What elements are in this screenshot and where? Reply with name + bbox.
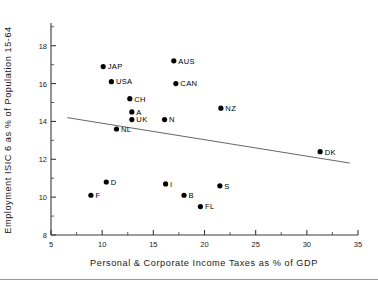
y-tick-label: 12 [39,155,47,164]
point-label-jap: JAP [108,62,123,71]
point-label-f: F [95,191,100,200]
y-tick-label: 10 [39,193,47,202]
figure-background [0,0,378,289]
point-marker [127,96,132,101]
y-tick-label: 18 [39,42,47,51]
point-label-b: B [189,191,194,200]
point-marker [218,106,223,111]
point-label-usa: USA [116,77,133,86]
x-tick-label: 35 [354,240,362,249]
point-marker [171,58,176,63]
point-label-ch: CH [134,95,146,104]
point-marker [217,183,222,188]
point-label-can: CAN [180,79,197,88]
point-label-nl: NL [121,125,131,134]
y-tick-label: 14 [39,117,47,126]
point-marker [181,193,186,198]
chart-figure: 5101520253035 81012141618 JAPUSAAUSCANCH… [0,0,378,289]
point-marker [101,64,106,69]
point-marker [163,181,168,186]
point-label-nz: NZ [225,104,236,113]
point-marker [129,109,134,114]
y-tick-label: 16 [39,80,47,89]
point-label-i: I [170,180,172,189]
point-marker [198,204,203,209]
point-marker [104,179,109,184]
y-axis-title: Employment ISIC 6 as % of Population 15-… [3,26,13,233]
point-marker [173,81,178,86]
x-tick-label: 30 [303,240,311,249]
point-label-n: N [169,115,175,124]
x-tick-label: 15 [149,240,157,249]
x-tick-label: 10 [98,240,106,249]
point-label-fl: FL [205,202,215,211]
x-tick-label: 25 [251,240,259,249]
x-axis-title: Personal & Corporate Income Taxes as % o… [90,258,318,268]
point-label-s: S [224,182,229,191]
point-label-aus: AUS [178,57,195,66]
point-marker [318,149,323,154]
scatter-plot: 5101520253035 81012141618 JAPUSAAUSCANCH… [0,0,378,289]
point-label-uk: UK [136,115,147,124]
x-tick-label: 5 [49,240,53,249]
point-label-d: D [111,178,117,187]
point-marker [109,79,114,84]
point-marker [114,126,119,131]
point-marker [162,117,167,122]
point-label-dk: DK [325,148,336,157]
x-tick-label: 20 [200,240,208,249]
point-marker [88,193,93,198]
point-marker [129,117,134,122]
y-tick-label: 8 [43,231,47,240]
